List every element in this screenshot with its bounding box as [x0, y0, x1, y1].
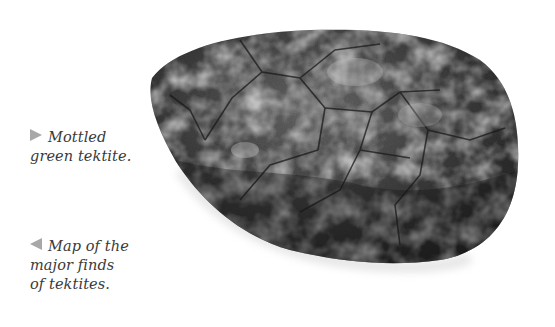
arrow-right-icon [30, 129, 42, 141]
caption-line: of tektites. [30, 276, 110, 292]
caption-map: Map of the major finds of tektites. [30, 237, 160, 294]
caption-line: green tektite. [30, 148, 131, 164]
arrow-left-icon [30, 238, 42, 250]
caption-line: Map of the [48, 238, 129, 254]
caption-line: major finds [30, 257, 114, 273]
caption-line: Mottled [48, 129, 106, 145]
caption-tektite: Mottled green tektite. [30, 128, 160, 166]
